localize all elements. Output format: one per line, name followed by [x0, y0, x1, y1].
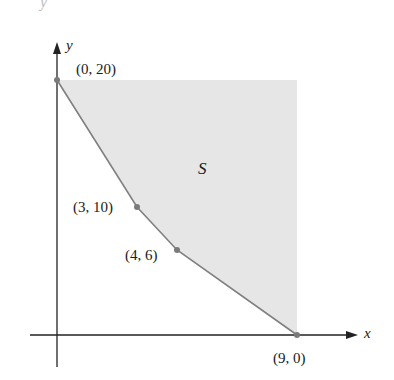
vertex-label: (9, 0)	[273, 351, 306, 366]
bleed-through-text: y	[40, 0, 47, 10]
vertex-label: (0, 20)	[76, 62, 116, 77]
vertex-dot	[174, 247, 180, 253]
region-label: S	[198, 160, 207, 177]
y-axis-label: y	[66, 38, 73, 53]
x-axis-arrow-icon	[346, 331, 358, 339]
vertex-dot	[134, 204, 140, 210]
feasible-region-diagram: y x S (0, 20) (3, 10) (4, 6) (9, 0) y	[0, 0, 394, 380]
y-axis-arrow-icon	[53, 42, 61, 54]
vertex-label: (4, 6)	[125, 248, 158, 263]
diagram-canvas	[0, 0, 394, 380]
x-axis-label: x	[364, 326, 371, 341]
vertex-label: (3, 10)	[73, 200, 113, 215]
vertex-dot	[54, 77, 60, 83]
vertex-dot	[294, 332, 300, 338]
